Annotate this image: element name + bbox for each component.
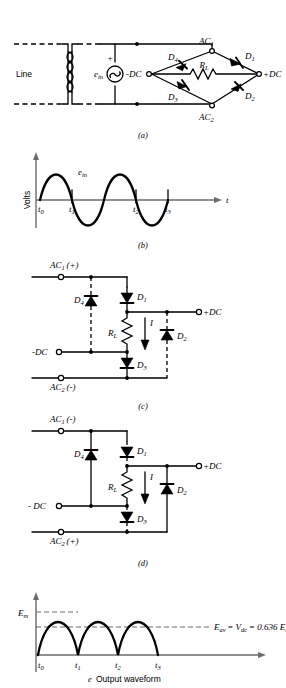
diode-d1-a bbox=[230, 58, 243, 69]
d-pos-dc-terminal[interactable] bbox=[196, 463, 201, 468]
ac2-label-a: AC2 bbox=[198, 112, 215, 123]
c-diode-d2 bbox=[161, 312, 174, 378]
d-load-resistor bbox=[122, 466, 132, 506]
e-tick-t0: t0 bbox=[38, 660, 45, 671]
e-average-equation: Eav = Vdc = 0.636 Em bbox=[213, 622, 286, 633]
e-tick-t2: t2 bbox=[115, 660, 122, 671]
d-neg-dc-label: - DC bbox=[28, 501, 47, 511]
b-x-axis-label: t bbox=[226, 195, 229, 205]
pos-dc-label-a: +DC bbox=[263, 69, 283, 79]
transformer bbox=[62, 44, 78, 104]
line-label: Line bbox=[16, 69, 32, 79]
ac1-node-a bbox=[210, 49, 215, 54]
c-diode-d4 bbox=[85, 277, 98, 352]
b-tick-t0: t0 bbox=[38, 204, 45, 215]
diode-d3-label-a: D3 bbox=[167, 92, 179, 103]
e-caption-text: Output waveform bbox=[96, 674, 161, 684]
b-y-axis-label: Volts bbox=[22, 191, 32, 209]
c-ac2-terminal[interactable] bbox=[58, 375, 63, 380]
d-neg-dc-terminal[interactable] bbox=[56, 503, 61, 508]
c-current-label: I bbox=[149, 318, 154, 328]
figure-canvas: .w { stroke:#000; stroke-width:1.3; fill… bbox=[0, 0, 286, 688]
figure-bridge-rectifier: .w { stroke:#000; stroke-width:1.3; fill… bbox=[0, 0, 286, 688]
e-peak-label: Em bbox=[17, 608, 29, 619]
e-tick-t3: t3 bbox=[155, 660, 162, 671]
e-y-arrow bbox=[33, 592, 39, 600]
c-diode-d1-label: D1 bbox=[136, 292, 147, 303]
panel-a-schematic: Line + ein -DC bbox=[14, 36, 283, 140]
c-ac1-terminal[interactable] bbox=[58, 274, 63, 279]
c-pos-dc-label: +DC bbox=[203, 307, 223, 317]
d-diode-d4 bbox=[85, 431, 98, 506]
b-y-arrow bbox=[33, 152, 39, 160]
b-tick-t3: t3 bbox=[165, 204, 172, 215]
c-load-resistor bbox=[122, 312, 132, 352]
c-diode-d1 bbox=[121, 287, 134, 312]
d-load-label: RL bbox=[107, 482, 118, 493]
d-ac1-terminal[interactable] bbox=[58, 428, 63, 433]
c-current-arrow bbox=[141, 318, 149, 350]
panel-a-caption: (a) bbox=[138, 130, 148, 140]
d-diode-d4-label: D4 bbox=[73, 449, 85, 460]
neg-dc-terminal-a[interactable] bbox=[147, 72, 152, 77]
c-diode-d3 bbox=[121, 352, 134, 378]
c-ac1-label: AC1 (+) bbox=[49, 260, 78, 271]
d-ac1-label: AC1 (-) bbox=[49, 414, 75, 425]
d-diode-d2 bbox=[161, 466, 174, 532]
ac2-node-a bbox=[210, 103, 215, 108]
e-caption-italic: e bbox=[88, 674, 92, 684]
panel-c-positive-half-cycle: AC1 (+) D1 +DC D4 RL bbox=[32, 260, 223, 411]
source-label: ein bbox=[94, 69, 103, 80]
c-pos-dc-terminal[interactable] bbox=[196, 309, 201, 314]
diode-d4-label-a: D4 bbox=[167, 52, 179, 63]
b-x-arrow bbox=[214, 197, 222, 203]
c-diode-d3-label: D3 bbox=[136, 360, 148, 371]
diode-d2-label-a: D2 bbox=[244, 91, 256, 102]
source-plus-sign: + bbox=[107, 53, 113, 63]
c-diode-d4-label: D4 bbox=[73, 295, 85, 306]
e-tick-t1: t1 bbox=[75, 660, 81, 671]
panel-b-caption: (b) bbox=[138, 240, 148, 250]
diode-d3-a bbox=[177, 80, 189, 90]
d-ac2-terminal[interactable] bbox=[58, 529, 63, 534]
b-signal-label: ein bbox=[78, 167, 87, 178]
c-ac2-label: AC2 (-) bbox=[49, 382, 75, 393]
c-neg-dc-label: -DC bbox=[32, 347, 48, 357]
panel-d-negative-half-cycle: AC1 (-) D1 +DC D4 RL bbox=[28, 414, 223, 568]
diode-d1-label-a: D1 bbox=[244, 51, 255, 62]
d-pos-dc-label: +DC bbox=[203, 461, 223, 471]
e-x-arrow bbox=[258, 652, 266, 658]
d-diode-d1 bbox=[121, 441, 134, 466]
panel-d-caption: (d) bbox=[138, 558, 148, 568]
panel-b-input-waveform: t0 t1 t2 t3 ein t Volts (b) bbox=[22, 152, 229, 250]
neg-dc-label-a: -DC bbox=[126, 69, 142, 79]
panel-c-caption: (c) bbox=[138, 401, 148, 411]
d-current-label: I bbox=[149, 472, 154, 482]
ac1-label-a: AC1 bbox=[198, 36, 214, 47]
d-diode-d1-label: D1 bbox=[136, 446, 147, 457]
d-current-arrow bbox=[141, 472, 149, 504]
c-diode-d2-label: D2 bbox=[176, 331, 188, 342]
panel-e-output-waveform: Em t0 t1 t2 t3 Eav = Vdc = 0.636 Em e Ou… bbox=[17, 592, 286, 684]
load-label-a: RL bbox=[198, 60, 209, 71]
d-diode-d3-label: D3 bbox=[136, 514, 148, 525]
c-load-label: RL bbox=[107, 328, 118, 339]
d-ac2-label: AC2 (+) bbox=[49, 536, 78, 547]
c-neg-dc-terminal[interactable] bbox=[56, 349, 61, 354]
d-diode-d3 bbox=[121, 506, 134, 532]
d-diode-d2-label: D2 bbox=[176, 485, 188, 496]
